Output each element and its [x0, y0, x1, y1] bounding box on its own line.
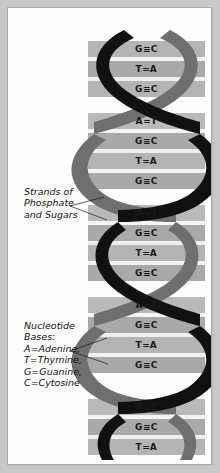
nucleotide-bases-legend: Nucleotide Bases: A=Adenine, T=Thymine, …	[24, 320, 82, 388]
figure-panel: G≡CT=AG≡CA=TG≡CT=AG≡CA=TG≡CT=AG≡CA=TG≡CT…	[7, 7, 212, 465]
helix-stage: G≡CT=AG≡CA=TG≡CT=AG≡CA=TG≡CT=AG≡CA=TG≡CT…	[8, 8, 211, 464]
dna-helix-graphic	[8, 8, 211, 464]
dna-figure: G≡CT=AG≡CA=TG≡CT=AG≡CA=TG≡CT=AG≡CA=TG≡CT…	[0, 0, 220, 473]
strands-of-phosphate-and-sugars-label: Strands of Phosphate and Sugars	[24, 186, 78, 220]
